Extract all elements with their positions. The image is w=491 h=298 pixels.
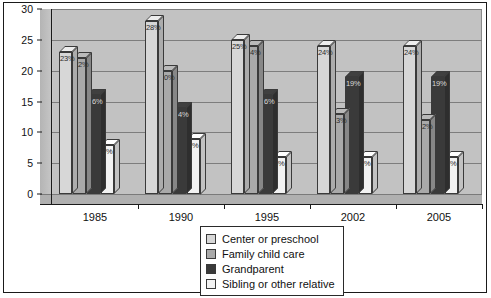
legend-item-label: Sibling or other relative <box>222 278 335 290</box>
bar-side-face <box>200 133 206 195</box>
bar-center-or-preschool-1995: 25% <box>231 40 244 194</box>
legend-swatch-icon <box>206 279 216 289</box>
bar-value-label: 25% <box>232 42 246 51</box>
x-axis-line <box>40 204 482 205</box>
bar-side-face <box>72 46 78 194</box>
y-axis-tick-label: 20 <box>21 65 33 77</box>
legend-swatch-icon <box>206 264 216 274</box>
y-axis-tick-label: 30 <box>21 3 33 15</box>
bar-center-or-preschool-1985: 23% <box>59 52 72 194</box>
y-axis-tick-label: 15 <box>21 96 33 108</box>
legend-item: Center or preschool <box>206 231 335 246</box>
legend-item-label: Family child care <box>222 248 305 260</box>
legend-item: Grandparent <box>206 261 335 276</box>
plot-area: 8%16%22%23%9%14%20%28%6%16%24%25%6%19%13… <box>40 9 482 205</box>
bar-group: 6%16%24%25% <box>231 9 287 194</box>
x-axis-tick-label: 2002 <box>310 211 396 223</box>
bar-side-face <box>258 40 264 194</box>
bar-value-label: 24% <box>404 48 418 57</box>
bar-group: 9%14%20%28% <box>145 9 201 194</box>
legend-item: Sibling or other relative <box>206 276 335 291</box>
y-axis-tick-mark <box>37 101 42 102</box>
bar-group: 8%16%22%23% <box>59 9 115 194</box>
bar-value-label: 28% <box>146 23 160 32</box>
y-axis-tick-label: 0 <box>27 188 33 200</box>
bar-side-face <box>86 52 92 194</box>
bar-side-face <box>172 65 178 194</box>
bar-side-face <box>158 15 164 194</box>
bar-side-face <box>286 151 292 194</box>
y-axis-tick-mark <box>37 70 42 71</box>
legend-item: Family child care <box>206 246 335 261</box>
y-axis-tick-label: 25 <box>21 34 33 46</box>
y-axis-line <box>51 9 52 205</box>
bar-value-label: 19% <box>432 79 446 88</box>
y-axis-tick-label: 10 <box>21 126 33 138</box>
bar-center-or-preschool-1990: 28% <box>145 21 158 194</box>
y-axis-tick-mark <box>37 39 42 40</box>
bar-side-face <box>244 34 250 194</box>
bar-face <box>403 46 416 194</box>
bar-group: 6%19%12%24% <box>403 9 459 194</box>
x-axis-tick-mark <box>310 204 311 209</box>
y-axis-tick-mark <box>37 163 42 164</box>
bar-side-face <box>330 40 336 194</box>
legend-item-label: Grandparent <box>222 263 284 275</box>
x-axis-tick-label: 2005 <box>396 211 482 223</box>
x-axis-tick-mark <box>138 204 139 209</box>
y-axis-tick-label: 5 <box>27 157 33 169</box>
bar-side-face <box>416 40 422 194</box>
bar-group: 6%19%13%24% <box>317 9 373 194</box>
bar-side-face <box>458 151 464 194</box>
bar-face <box>317 46 330 194</box>
y-axis-tick-mark <box>37 9 42 10</box>
bar-value-label: 23% <box>60 54 74 63</box>
bar-side-face <box>444 71 450 194</box>
bar-value-label: 19% <box>346 79 360 88</box>
legend-item-label: Center or preschool <box>222 233 319 245</box>
x-axis-tick-label: 1990 <box>138 211 224 223</box>
chart-frame: 8%16%22%23%9%14%20%28%6%16%24%25%6%19%13… <box>3 2 487 293</box>
y-axis-tick-mark <box>37 132 42 133</box>
bar-side-face <box>372 151 378 194</box>
legend-swatch-icon <box>206 249 216 259</box>
bar-face <box>231 40 244 194</box>
y-axis-tick-mark <box>37 194 42 195</box>
bar-center-or-preschool-2002: 24% <box>317 46 330 194</box>
bar-face <box>145 21 158 194</box>
bar-side-face <box>114 139 120 194</box>
bar-face <box>59 52 72 194</box>
x-axis-tick-label: 1995 <box>224 211 310 223</box>
chart-legend: Center or preschoolFamily child careGran… <box>200 226 344 296</box>
bar-side-face <box>358 71 364 194</box>
x-axis-tick-mark <box>482 204 483 209</box>
bar-value-label: 24% <box>318 48 332 57</box>
legend-swatch-icon <box>206 234 216 244</box>
bar-center-or-preschool-2005: 24% <box>403 46 416 194</box>
x-axis-tick-label: 1985 <box>52 211 138 223</box>
x-axis-tick-mark <box>224 204 225 209</box>
x-axis-tick-mark <box>396 204 397 209</box>
